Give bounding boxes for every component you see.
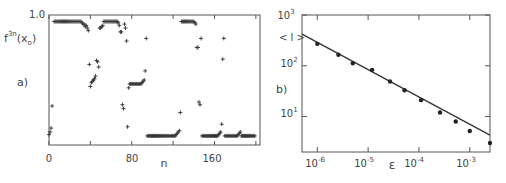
panel-b: 103 < l > 102 b) 101 10-6 10-5 ε 10-4 10… bbox=[276, 8, 492, 172]
panel-a-xtick-0: 0 bbox=[46, 153, 52, 164]
panel-b-ytick-1e1: 101 bbox=[280, 106, 297, 119]
panel-b-xtick-1e-6: 10-6 bbox=[305, 156, 325, 169]
panel-b-xtick-1e-5: 10-5 bbox=[354, 156, 374, 169]
panel-b-ytick-1e3: 103 bbox=[277, 8, 294, 21]
panel-a-ytick-top: 1.0 bbox=[29, 9, 45, 20]
panel-b-ticks bbox=[302, 15, 490, 152]
panel-a-label: a) bbox=[17, 76, 28, 89]
panel-a-data-points bbox=[47, 20, 257, 138]
panel-b-xtick-1e-4: 10-4 bbox=[404, 156, 424, 169]
panel-b-label: b) bbox=[276, 83, 287, 96]
panel-a: 1.0 f3n(xo) a) 0 80 160 n bbox=[4, 9, 260, 170]
panel-b-data-points bbox=[315, 42, 492, 146]
panel-a-ticks bbox=[49, 15, 256, 145]
panel-b-ylabel: < l > bbox=[279, 32, 305, 43]
panel-a-xlabel: n bbox=[161, 157, 168, 170]
panel-a-xtick-80: 80 bbox=[126, 153, 139, 164]
panel-b-xtick-1e-3: 10-3 bbox=[456, 156, 476, 169]
panel-a-ylabel: f3n(xo) bbox=[4, 30, 36, 47]
panel-b-frame bbox=[302, 15, 490, 152]
panel-b-ytick-1e2: 102 bbox=[280, 56, 297, 69]
panel-a-xtick-160: 160 bbox=[202, 153, 221, 164]
panel-a-frame bbox=[49, 15, 260, 145]
panel-b-fit-line bbox=[302, 34, 490, 135]
panel-b-xlabel: ε bbox=[389, 158, 396, 172]
figure: 1.0 f3n(xo) a) 0 80 160 n 103 < l > 102 … bbox=[0, 0, 506, 183]
